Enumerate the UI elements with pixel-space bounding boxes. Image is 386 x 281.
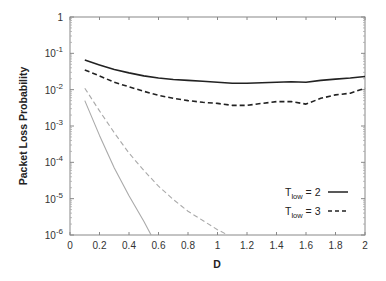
series-line [85,60,365,83]
y-tick-label: 10-6 [45,227,64,241]
series-line [85,88,228,235]
x-tick-label: 1 [215,240,221,251]
legend: Tlow = 2Tlow = 3 [285,186,348,220]
y-axis-title: Packet Loss Probability [17,67,29,186]
legend-label: Tlow = 3 [285,205,321,220]
plot-frame [70,17,365,235]
x-axis: 00.20.40.60.811.21.41.61.82 [67,17,368,251]
series-line [85,70,365,106]
x-tick-label: 0 [67,240,73,251]
x-tick-label: 1.2 [240,240,254,251]
y-tick-label: 10-1 [45,45,64,59]
x-tick-label: 1.6 [299,240,313,251]
y-tick-label: 10-3 [45,118,64,132]
x-tick-label: 0.6 [152,240,166,251]
y-tick-label: 10-2 [45,82,64,96]
x-tick-label: 0.4 [122,240,136,251]
x-axis-title: D [213,258,221,270]
plot-area [70,17,365,235]
y-tick-label: 10-5 [45,191,64,205]
packet-loss-chart: 00.20.40.60.811.21.41.61.82 10-610-510-4… [0,0,386,281]
x-tick-label: 1.4 [270,240,284,251]
x-tick-label: 2 [362,240,368,251]
y-tick-label: 1 [57,12,63,23]
y-tick-label: 10-4 [45,154,64,168]
x-tick-label: 0.2 [93,240,107,251]
series-layer [85,60,365,235]
x-tick-label: 1.8 [329,240,343,251]
legend-label: Tlow = 2 [285,186,321,201]
x-tick-label: 0.8 [181,240,195,251]
